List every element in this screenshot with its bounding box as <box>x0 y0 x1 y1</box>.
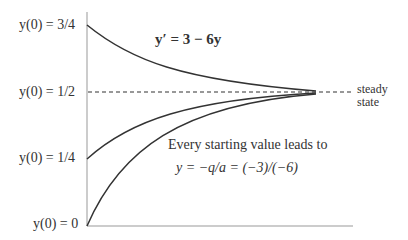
steady-state-label-line2: state <box>357 96 379 108</box>
label-y0-zero: y(0) = 0 <box>33 216 78 232</box>
note-line2: y = −q/a = (−3)/(−6) <box>176 160 298 176</box>
label-y0-half: y(0) = 1/2 <box>19 84 75 100</box>
label-y0-quarter: y(0) = 1/4 <box>19 150 75 166</box>
equation-title: y′ = 3 − 6y <box>155 31 221 48</box>
note-line1: Every starting value leads to <box>168 137 327 153</box>
solution-curves-figure: y(0) = 3/4 y(0) = 1/2 y(0) = 1/4 y(0) = … <box>0 0 408 240</box>
steady-state-label-line1: steady <box>357 83 388 95</box>
label-y0-three-quarters: y(0) = 3/4 <box>19 17 75 33</box>
